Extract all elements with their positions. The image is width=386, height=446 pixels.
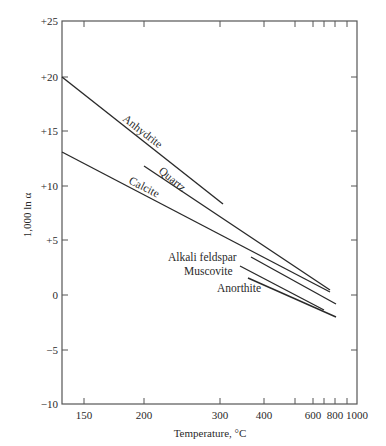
plot-frame <box>62 21 357 404</box>
x-tick-label: 800 <box>327 409 344 421</box>
y-tick-label: +20 <box>41 71 59 83</box>
x-axis-ticks: 1502003004006008001000 <box>76 21 369 421</box>
y-tick-label: +25 <box>41 15 59 27</box>
y-tick-label: +5 <box>46 234 58 246</box>
x-axis-title: Temperature, °C <box>174 427 247 439</box>
series-lines <box>62 77 336 317</box>
y-tick-label: +10 <box>41 180 59 192</box>
series-label-muscovite: Muscovite <box>184 265 233 277</box>
y-tick-label: −5 <box>46 344 58 356</box>
x-tick-label: 150 <box>76 409 93 421</box>
series-label-anorthite: Anorthite <box>217 282 261 294</box>
y-axis-ticks: +25+20+15+10+50−5−10 <box>41 15 357 410</box>
x-tick-label: 300 <box>212 409 229 421</box>
series-label-alkali-feldspar: Alkali feldspar <box>168 251 237 264</box>
series-label-anhydrite: Anhydrite <box>120 112 165 151</box>
chart-canvas: 1502003004006008001000 +25+20+15+10+50−5… <box>0 0 386 446</box>
series-label-quartz: Quartz <box>157 164 189 193</box>
y-tick-label: 0 <box>53 289 59 301</box>
x-tick-label: 200 <box>136 409 153 421</box>
plot-area-border <box>62 21 357 404</box>
x-tick-label: 1000 <box>346 409 369 421</box>
series-line-alkali-feldspar <box>251 257 336 304</box>
y-tick-label: +15 <box>41 125 59 137</box>
x-tick-label: 400 <box>256 409 273 421</box>
y-tick-label: −10 <box>41 398 59 410</box>
x-tick-label: 600 <box>305 409 322 421</box>
isotope-fractionation-chart: 1502003004006008001000 +25+20+15+10+50−5… <box>0 0 386 446</box>
y-axis-title: 1,000 ln α <box>21 192 33 237</box>
